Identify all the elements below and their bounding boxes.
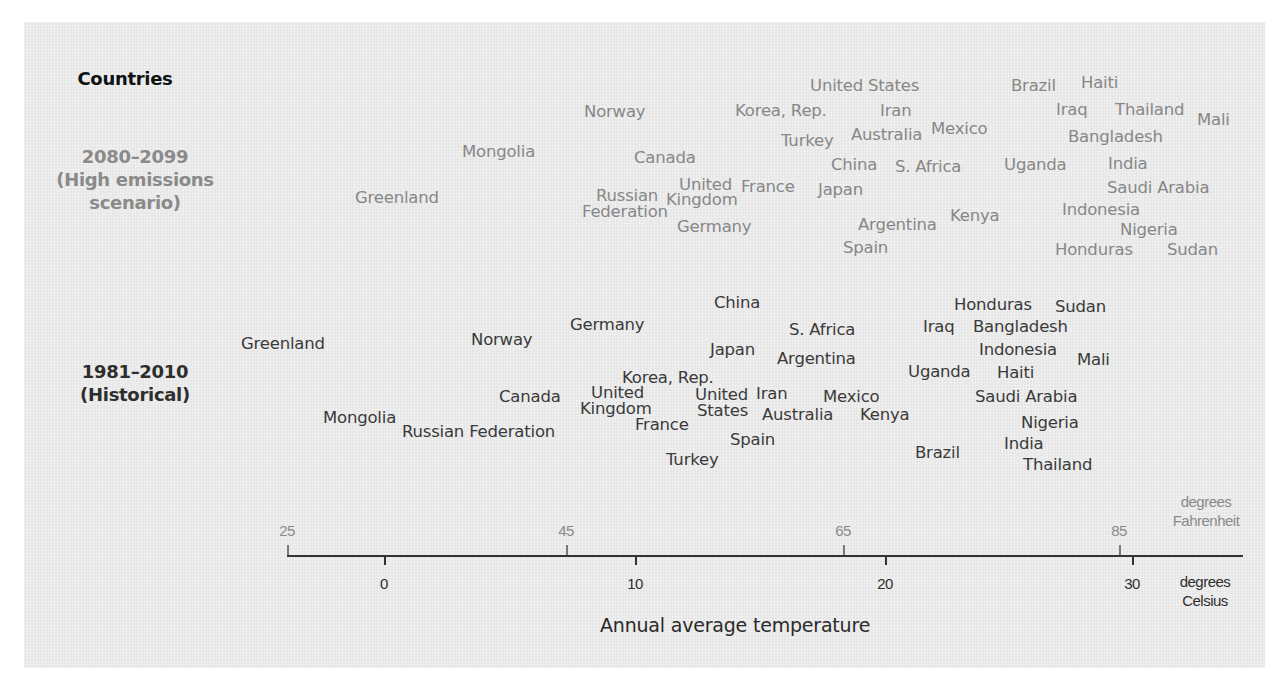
projected-country-label: Mexico	[931, 121, 987, 137]
chart-title: Countries	[60, 67, 190, 90]
historical-country-label: Canada	[499, 389, 561, 405]
historical-country-label: Mongolia	[323, 410, 396, 426]
fahrenheit-tick-mark	[1119, 545, 1121, 555]
projected-country-label: Federation	[582, 204, 668, 220]
historical-country-label: Iran	[756, 386, 787, 402]
historical-country-label: Germany	[570, 317, 644, 333]
projected-country-label: Norway	[584, 104, 645, 120]
historical-country-label: Kenya	[860, 407, 909, 423]
projected-country-label: Sudan	[1167, 242, 1218, 258]
projected-country-label: Honduras	[1055, 242, 1133, 258]
historical-country-label: Argentina	[777, 351, 856, 367]
row-label-projected: 2080–2099 (High emissions scenario)	[40, 145, 230, 214]
fahrenheit-unit-line2: Fahrenheit	[1168, 511, 1244, 530]
historical-country-label: Australia	[762, 407, 833, 423]
projected-country-label: Iran	[880, 103, 911, 119]
historical-country-label: China	[714, 295, 760, 311]
celsius-unit-label: degrees Celsius	[1170, 572, 1240, 610]
celsius-unit-line1: degrees	[1170, 572, 1240, 591]
historical-country-label: Thailand	[1023, 457, 1092, 473]
celsius-unit-line2: Celsius	[1170, 591, 1240, 610]
projected-country-label: Haiti	[1081, 75, 1118, 91]
historical-country-label: Nigeria	[1021, 415, 1079, 431]
projected-country-label: Nigeria	[1120, 222, 1178, 238]
historical-country-label: Honduras	[954, 297, 1032, 313]
projected-country-label: Kingdom	[666, 192, 738, 208]
historical-country-label: Turkey	[666, 452, 719, 468]
historical-country-label: Iraq	[923, 319, 954, 335]
projected-country-label: Mali	[1197, 112, 1230, 128]
projected-country-label: Spain	[843, 240, 888, 256]
projected-country-label: China	[831, 157, 877, 173]
celsius-tick-mark	[1132, 556, 1134, 565]
projected-country-label: Indonesia	[1062, 202, 1140, 218]
row-label-historical-desc: (Historical)	[60, 383, 210, 406]
projected-country-label: Greenland	[355, 190, 439, 206]
projected-country-label: Uganda	[1004, 157, 1067, 173]
historical-country-label: Mali	[1077, 352, 1110, 368]
fahrenheit-unit-label: degrees Fahrenheit	[1168, 492, 1244, 530]
projected-country-label: India	[1108, 156, 1148, 172]
projected-country-label: Turkey	[781, 133, 834, 149]
projected-country-label: Germany	[677, 219, 751, 235]
projected-country-label: Saudi Arabia	[1107, 180, 1209, 196]
projected-country-label: Canada	[634, 150, 696, 166]
celsius-tick-label: 0	[380, 575, 388, 592]
fahrenheit-tick-label: 65	[835, 522, 851, 539]
historical-country-label: Haiti	[997, 365, 1034, 381]
fahrenheit-tick-mark	[566, 545, 568, 555]
row-label-projected-years: 2080–2099	[40, 145, 230, 168]
x-axis-title: Annual average temperature	[600, 614, 870, 636]
historical-country-label: Brazil	[915, 445, 960, 461]
projected-country-label: Australia	[851, 127, 922, 143]
historical-country-label: Indonesia	[979, 342, 1057, 358]
historical-country-label: France	[635, 417, 689, 433]
row-label-historical: 1981–2010 (Historical)	[60, 360, 210, 406]
fahrenheit-tick-label: 85	[1111, 522, 1127, 539]
projected-country-label: Kenya	[950, 208, 999, 224]
historical-country-label: Norway	[471, 332, 532, 348]
projected-country-label: S. Africa	[895, 159, 961, 175]
celsius-tick-label: 10	[627, 575, 643, 592]
projected-country-label: Mongolia	[462, 144, 535, 160]
historical-country-label: Sudan	[1055, 299, 1106, 315]
row-label-historical-years: 1981–2010	[60, 360, 210, 383]
row-label-projected-desc1: (High emissions	[40, 168, 230, 191]
historical-country-label: Bangladesh	[973, 319, 1068, 335]
temperature-axis-line	[287, 555, 1243, 557]
historical-country-label: S. Africa	[789, 322, 855, 338]
historical-country-label: Greenland	[241, 336, 325, 352]
celsius-tick-mark	[384, 556, 386, 565]
row-label-projected-desc2: scenario)	[40, 191, 230, 214]
projected-country-label: Argentina	[858, 217, 937, 233]
fahrenheit-tick-label: 45	[558, 522, 574, 539]
historical-country-label: States	[697, 403, 748, 419]
celsius-tick-mark	[635, 556, 637, 565]
projected-country-label: Iraq	[1056, 102, 1087, 118]
historical-country-label: Uganda	[908, 364, 971, 380]
projected-country-label: Bangladesh	[1068, 129, 1163, 145]
historical-country-label: Mexico	[823, 389, 879, 405]
projected-country-label: United States	[810, 78, 919, 94]
projected-country-label: Brazil	[1011, 78, 1056, 94]
historical-country-label: Saudi Arabia	[975, 389, 1077, 405]
projected-country-label: Japan	[818, 182, 863, 198]
historical-country-label: India	[1004, 436, 1044, 452]
projected-country-label: Thailand	[1115, 102, 1184, 118]
fahrenheit-tick-mark	[843, 545, 845, 555]
historical-country-label: Spain	[730, 432, 775, 448]
fahrenheit-tick-mark	[287, 545, 289, 555]
fahrenheit-unit-line1: degrees	[1168, 492, 1244, 511]
celsius-tick-label: 20	[877, 575, 893, 592]
celsius-tick-mark	[885, 556, 887, 565]
celsius-tick-label: 30	[1124, 575, 1140, 592]
fahrenheit-tick-label: 25	[279, 522, 295, 539]
projected-country-label: Korea, Rep.	[735, 103, 827, 119]
historical-country-label: Japan	[710, 342, 755, 358]
projected-country-label: France	[741, 179, 795, 195]
historical-country-label: Russian Federation	[402, 424, 555, 440]
